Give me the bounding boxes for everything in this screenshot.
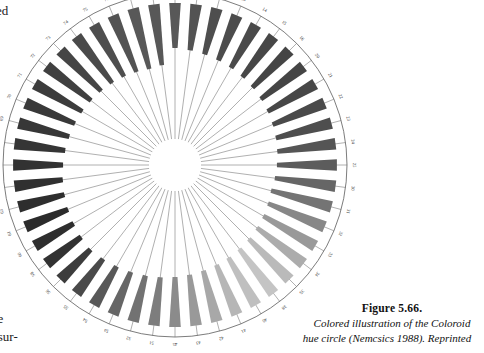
caption-line-2: hue circle (Nemcsics 1988). Reprinted [290,331,484,346]
caption-line-1: Colored illustration of the Coloroid [314,317,471,329]
caption-title: Figure 5.66. [300,302,484,314]
hue-tick-label: 53 [103,327,110,334]
page-text-fragment-left-lower: asur- [0,330,18,345]
hue-bar [128,275,148,323]
hue-tick-label: 58 [29,270,36,277]
hue-tick-label: 20 [314,52,321,59]
hue-tick-label: 73 [45,34,52,41]
hue-tick-label: 41 [240,328,247,335]
hue-tick-label: 13 [241,0,248,3]
hue-tick-label: 71 [16,71,23,78]
hue-tick-label: 54 [81,317,88,324]
hue-tick-label: 60 [16,251,23,258]
hue-tick-label: 25 [352,163,357,168]
hue-tick-label: 43 [195,340,201,346]
caption-body: Colored illustration of the Coloroid hue… [300,316,484,345]
hue-tick-label: 76 [103,0,110,2]
hue-tick-label: 35 [298,288,305,295]
hue-tick-label: 24 [350,139,356,145]
hue-bar [247,237,293,283]
hue-tick-label: 23 [345,116,351,122]
hue-tick-label: 30 [350,186,356,192]
hue-bar [169,3,181,48]
hue-bar [56,46,102,92]
hue-tick-label: 34 [314,271,321,278]
hue-tick-label: 70 [6,93,13,100]
hue-tick-label: 38 [280,304,287,311]
hue-tick-label: 22 [338,93,345,100]
hue-bar [275,176,337,192]
hue-bar [202,7,222,55]
hue-tick-label: 56 [44,288,51,295]
hue-tick-label: 52 [125,335,131,341]
hue-tick-label: 14 [261,6,268,13]
hue-tick-label: 61 [6,230,13,237]
hue-tick-label: 15 [281,19,288,26]
hue-tick-label: 33 [327,251,334,258]
hue-bar [169,277,181,327]
hue-tick-label: 63 [0,208,5,214]
hue-tick-label: 69 [0,115,5,121]
hue-bar [277,138,336,154]
hue-bar [17,192,65,212]
center-hub [149,139,201,191]
hue-bar [14,177,63,192]
hue-bar [13,159,63,171]
hue-tick-label: 75 [82,6,89,13]
hue-bar [187,274,202,326]
page-text-fragment-left-upper: le [0,312,3,327]
hue-tick-label: 40 [261,317,268,324]
hue-tick-label: 16 [298,35,305,42]
hue-bar [148,4,164,66]
hue-bar [148,277,163,326]
hue-tick-label: 72 [29,52,36,59]
hue-tick-label: 32 [337,231,344,238]
hue-bar [277,159,337,171]
hue-tick-label: 55 [62,304,69,311]
hue-tick-label: 74 [62,19,69,26]
hue-bar [188,4,202,51]
hue-tick-label: 51 [148,340,154,346]
page-text-fragment-top-left: ed [0,4,8,19]
coloroid-hue-circle-chart: 1011121314151620212223242530313233343538… [0,0,484,353]
figure-caption: Figure 5.66. Colored illustration of the… [300,302,484,345]
hue-bar [14,138,66,153]
figure-container: ed le asur- 1011121314151620212223242530… [0,0,484,353]
hue-tick-label: 45 [172,342,177,347]
hue-tick-label: 42 [218,335,224,341]
hue-tick-label: 31 [345,209,351,215]
hue-tick-label: 21 [327,72,334,79]
